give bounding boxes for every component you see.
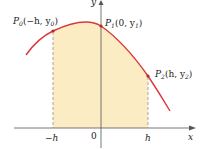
diagram-canvas: y P0(−h, y0) P1(0, y1) P2(h, y2) −h 0 h … [0,0,200,149]
label-p1: P1(0, y1) [104,18,142,29]
y-axis-arrow-icon [99,0,104,5]
label-p2: P2(h, y2) [154,69,192,80]
tick-label-zero: 0 [91,131,97,141]
x-axis-label: x [188,132,193,142]
point-p1 [99,24,102,27]
shaded-area [53,22,148,128]
label-p0: P0(−h, y0) [12,16,58,27]
tick-label-pos-h: h [145,133,151,143]
x-axis-arrow-icon [189,126,196,131]
point-p2 [146,74,149,77]
parabola-diagram: y P0(−h, y0) P1(0, y1) P2(h, y2) −h 0 h … [0,0,200,149]
y-axis-label: y [90,0,97,7]
tick-label-neg-h: −h [45,133,58,143]
point-p0 [51,29,54,32]
